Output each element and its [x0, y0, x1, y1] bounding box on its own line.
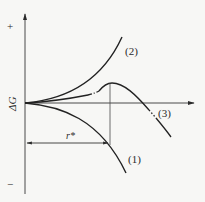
y-axis-positive-sign: +	[7, 20, 13, 32]
curve-3-peak	[99, 83, 149, 110]
curve-3-tail	[156, 118, 171, 137]
y-axis-label: ΔG	[6, 97, 18, 112]
curve-2	[25, 37, 122, 103]
axes	[25, 14, 194, 194]
curve-1-label: (1)	[128, 153, 141, 166]
free-energy-diagram: + − ΔG (2) (3) (1) r*	[0, 0, 205, 202]
curve-3-label: (3)	[158, 107, 171, 120]
y-axis-negative-sign: −	[7, 178, 13, 190]
curve-1	[25, 103, 126, 173]
critical-radius-label: r*	[66, 130, 75, 141]
curve-2-label: (2)	[125, 45, 138, 58]
curve-3-dashed-falling	[149, 110, 156, 118]
curve-3-dashdot-rising	[88, 91, 99, 95]
